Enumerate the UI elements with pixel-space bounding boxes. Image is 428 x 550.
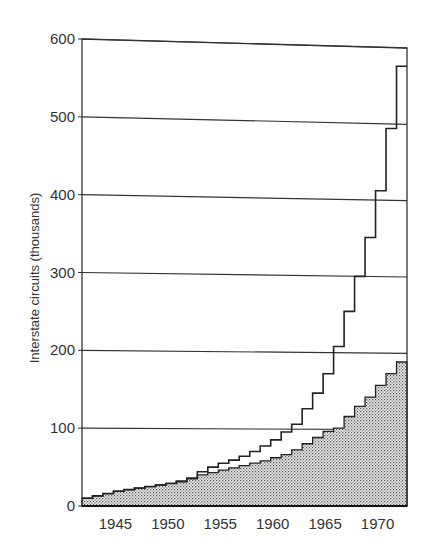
gridline-200	[82, 350, 407, 353]
y-tick-label-400: 400	[50, 186, 75, 203]
y-tick-label-200: 200	[50, 341, 75, 358]
shaded-series-area	[82, 362, 407, 506]
gridline-400	[82, 195, 407, 201]
y-axis-title: Interstate circuits (thousands)	[27, 193, 42, 364]
y-tick-label-100: 100	[50, 419, 75, 436]
x-tick-label-1965: 1965	[308, 515, 341, 532]
gridline-500	[82, 117, 407, 125]
gridlines	[82, 39, 407, 430]
x-tick-label-1970: 1970	[361, 515, 394, 532]
y-tick-label-300: 300	[50, 264, 75, 281]
y-axis-ticks: 0100200300400500600	[50, 30, 82, 514]
x-tick-label-1945: 1945	[99, 515, 132, 532]
x-tick-label-1955: 1955	[204, 515, 237, 532]
step-chart: 0100200300400500600 19451950195519601965…	[0, 0, 428, 550]
y-tick-label-600: 600	[50, 30, 75, 47]
y-tick-label-500: 500	[50, 108, 75, 125]
x-tick-label-1960: 1960	[256, 515, 289, 532]
x-axis-ticks: 194519501955196019651970	[99, 515, 394, 532]
y-tick-label-0: 0	[67, 497, 75, 514]
x-tick-label-1950: 1950	[151, 515, 184, 532]
